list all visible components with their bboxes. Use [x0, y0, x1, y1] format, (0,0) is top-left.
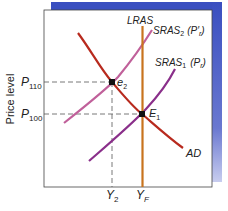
- p110-label: P110: [21, 75, 42, 91]
- frame-shadow-right: [212, 2, 222, 182]
- sras1-label: SRAS1(Pr): [155, 57, 206, 69]
- lras-label: LRAS: [127, 15, 153, 26]
- y-axis-label: Price level: [4, 74, 16, 125]
- yf-label: YF: [136, 188, 150, 204]
- p100-label: P100: [21, 107, 43, 123]
- y2-label: Y2: [106, 188, 119, 204]
- e2-point: [109, 79, 115, 85]
- e1-point: [139, 111, 145, 117]
- plot-frame: [44, 10, 212, 187]
- ad-label: AD: [185, 147, 201, 159]
- chart: Price level P110 P100 Y2 YF LRAS SRAS2(P…: [0, 0, 228, 211]
- sras2-label: SRAS2(P′r): [153, 25, 205, 37]
